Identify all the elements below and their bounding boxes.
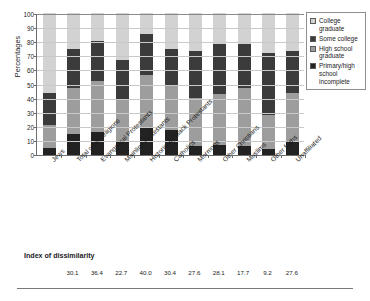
bar-segment-college-graduate: [91, 13, 104, 41]
y-axis-tick-mark: [34, 127, 37, 128]
index-value: 30.4: [158, 269, 182, 276]
bar-segment-some-college: [67, 49, 80, 88]
bar-segment-some-college: [116, 60, 129, 100]
y-axis-tick-label: 90: [27, 25, 34, 32]
y-axis-tick-mark: [34, 113, 37, 114]
y-axis-tick-mark: [34, 56, 37, 57]
bar-segment-some-college: [213, 44, 226, 94]
legend-swatch-some-college: [310, 36, 316, 42]
y-axis-tick-mark: [34, 70, 37, 71]
gridline: [37, 14, 304, 15]
gridline: [37, 56, 304, 57]
bar-segment-some-college: [286, 51, 299, 92]
y-axis-tick-label: 100: [23, 11, 34, 18]
legend-item-primary-high-school-incomplete: Primary/high school incomplete: [310, 62, 362, 85]
y-axis-tick-label: 10: [27, 137, 34, 144]
bar-segment-some-college: [238, 44, 251, 88]
index-value: 27.6: [182, 269, 206, 276]
legend-label-high-school-graduate: High school graduate: [319, 45, 362, 60]
chart-legend: College graduate Some college High schoo…: [306, 12, 366, 90]
bar-segment-college-graduate: [286, 13, 299, 51]
gridline: [37, 85, 304, 86]
index-of-dissimilarity-title: Index of dissimilarity: [24, 252, 95, 260]
index-value: 27.6: [280, 269, 304, 276]
bar-segment-some-college: [165, 49, 178, 85]
bar-segment-college-graduate: [140, 13, 153, 34]
gridline: [37, 127, 304, 128]
index-value: 9.2: [255, 269, 279, 276]
index-of-dissimilarity-values: 30.136.422.740.030.427.628.117.79.227.6: [36, 269, 304, 279]
legend-label-primary-high-school-incomplete: Primary/high school incomplete: [319, 62, 362, 85]
y-axis-tick-mark: [34, 85, 37, 86]
bar-segment-college-graduate: [67, 13, 80, 49]
legend-label-some-college: Some college: [319, 35, 358, 43]
y-axis-tick-label: 70: [27, 53, 34, 60]
bar-segment-college-graduate: [189, 13, 202, 51]
legend-item-high-school-graduate: High school graduate: [310, 45, 362, 60]
index-value: 22.7: [109, 269, 133, 276]
legend-swatch-college-graduate: [310, 18, 316, 24]
bar-segment-some-college: [43, 93, 56, 126]
legend-swatch-primary-high-school-incomplete: [310, 63, 316, 69]
legend-label-college-graduate: College graduate: [319, 17, 362, 32]
legend-swatch-high-school-graduate: [310, 46, 316, 52]
y-axis-tick-label: 40: [27, 95, 34, 102]
y-axis-tick-label: 50: [27, 81, 34, 88]
y-axis-tick-mark: [34, 42, 37, 43]
y-axis-tick-mark: [34, 28, 37, 29]
index-value: 28.1: [207, 269, 231, 276]
bar-segment-some-college: [189, 51, 202, 98]
gridline: [37, 99, 304, 100]
y-axis-tick-mark: [34, 155, 37, 156]
bar-segment-college-graduate: [43, 13, 56, 93]
y-axis-tick-label: 80: [27, 39, 34, 46]
y-axis-tick-label: 20: [27, 123, 34, 130]
bar-segment-some-college: [91, 41, 104, 81]
bar-segment-some-college: [140, 34, 153, 74]
legend-item-college-graduate: College graduate: [310, 17, 362, 32]
index-value: 40.0: [134, 269, 158, 276]
y-axis-tick-label: 60: [27, 67, 34, 74]
bar-segment-college-graduate: [116, 13, 129, 60]
y-axis-tick-label: 30: [27, 109, 34, 116]
footer-divider: [17, 288, 353, 289]
index-value: 36.4: [85, 269, 109, 276]
y-axis-tick-mark: [34, 141, 37, 142]
y-axis-tick-mark: [34, 99, 37, 100]
legend-item-some-college: Some college: [310, 35, 362, 43]
gridline: [37, 70, 304, 71]
y-axis-title: Percentages: [13, 12, 22, 102]
y-axis-tick-mark: [34, 14, 37, 15]
bar-segment-high-school-graduate: [91, 81, 104, 132]
x-axis-category-labels: JewsTotal other religionsEvangelical Pro…: [36, 158, 336, 244]
index-value: 30.1: [61, 269, 85, 276]
bar-segment-college-graduate: [262, 13, 275, 53]
gridline: [37, 113, 304, 114]
bar-segment-high-school-graduate: [43, 125, 56, 148]
bar-segment-college-graduate: [165, 13, 178, 49]
gridline: [37, 42, 304, 43]
gridline: [37, 28, 304, 29]
stacked-bar-chart-figure: Percentages 0102030405060708090100 JewsT…: [0, 0, 370, 301]
index-value: 17.7: [231, 269, 255, 276]
bar-segment-primary-high-school-incomplete: [67, 134, 80, 155]
